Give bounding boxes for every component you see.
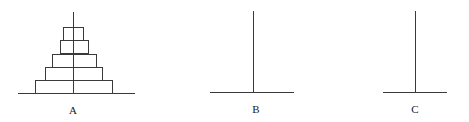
- peg-c: [383, 11, 447, 93]
- disk-3: [53, 55, 97, 68]
- peg-a-label: A: [69, 104, 77, 116]
- peg-c-label: C: [411, 103, 418, 115]
- peg-b-label: B: [252, 103, 259, 115]
- peg-b: [210, 11, 294, 93]
- peg-a: [18, 12, 135, 94]
- disk-2: [61, 41, 89, 54]
